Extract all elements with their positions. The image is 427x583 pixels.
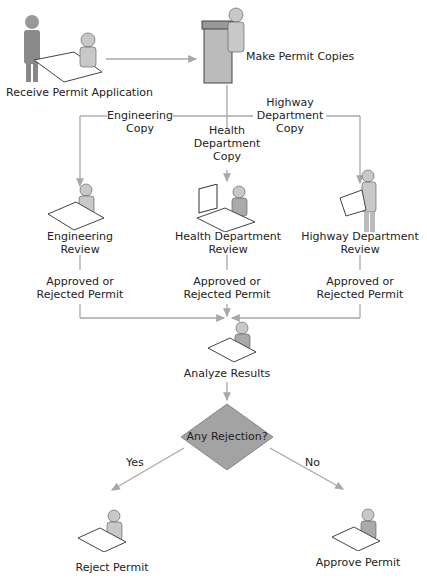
permit-workflow-diagram: Receive Permit Application Make Permit C… <box>0 0 427 583</box>
yes-label: Yes <box>126 456 144 469</box>
highway-review-label: Highway Department Review <box>300 230 420 256</box>
no-label: No <box>305 456 320 469</box>
engineering-result-label: Approved or Rejected Permit <box>30 275 130 301</box>
engineering-review-icon <box>46 182 106 232</box>
health-review-label: Health Department Review <box>172 230 284 256</box>
receive-application-icon <box>14 12 109 84</box>
analyze-results-icon <box>206 320 258 364</box>
highway-review-icon <box>338 168 384 234</box>
approve-permit-label: Approve Permit <box>308 556 408 569</box>
approve-permit-icon <box>330 507 384 551</box>
health-copy-label: Health Department Copy <box>193 124 261 163</box>
reject-permit-label: Reject Permit <box>62 561 162 574</box>
analyze-results-label: Analyze Results <box>177 367 277 380</box>
receive-application-label: Receive Permit Application <box>6 86 146 99</box>
health-review-icon <box>195 184 257 232</box>
engineering-review-label: Engineering Review <box>40 230 120 256</box>
make-copies-label: Make Permit Copies <box>246 50 354 63</box>
reject-permit-icon <box>76 508 130 552</box>
health-result-label: Approved or Rejected Permit <box>177 275 277 301</box>
highway-result-label: Approved or Rejected Permit <box>310 275 410 301</box>
highway-copy-label: Highway Department Copy <box>253 96 327 135</box>
decision-label: Any Rejection? <box>181 430 273 443</box>
copier-icon <box>200 5 250 87</box>
engineering-copy-label: Engineering Copy <box>106 109 174 135</box>
